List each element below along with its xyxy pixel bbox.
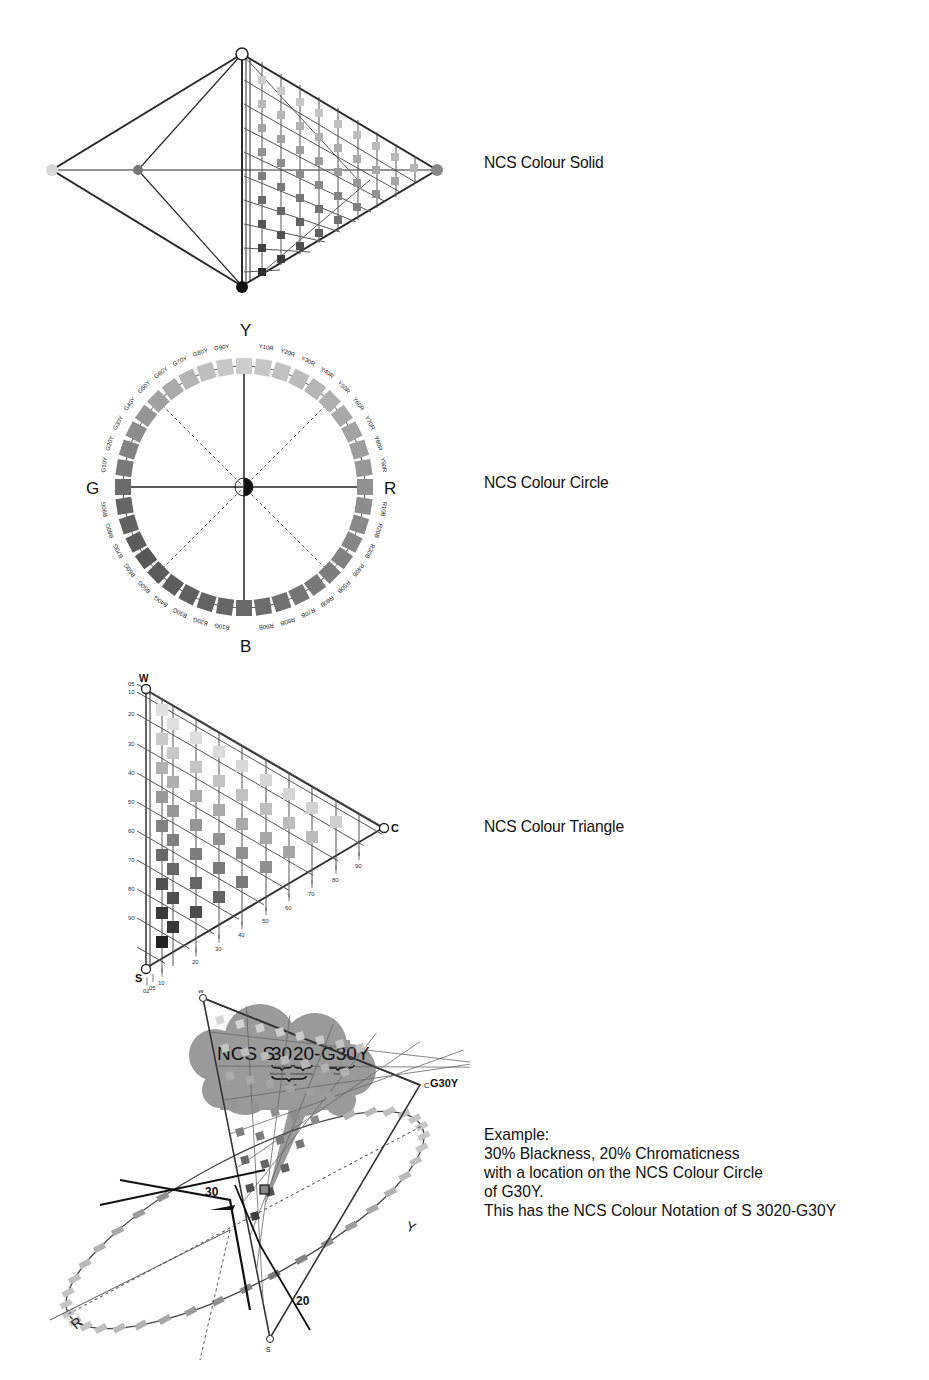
svg-text:80: 80 (332, 877, 339, 883)
svg-text:R10B: R10B (380, 501, 388, 517)
svg-text:G90Y: G90Y (214, 343, 230, 351)
svg-text:20: 20 (192, 959, 199, 965)
svg-text:90: 90 (355, 863, 362, 869)
example-corner-w: W (198, 990, 204, 994)
svg-text:B60G: B60G (122, 562, 136, 578)
example-line-5: This has the NCS Colour Notation of S 30… (484, 1201, 836, 1220)
example-description: Example: 30% Blackness, 20% Chromaticnes… (484, 1125, 836, 1220)
example-line-1: Example: (484, 1125, 836, 1144)
svg-text:G70Y: G70Y (172, 355, 188, 367)
white-corner-icon (142, 685, 151, 694)
svg-text:40: 40 (238, 932, 245, 938)
ncs-colour-triangle-diagram: 0510203040506070809002051020304050607080… (125, 670, 415, 1000)
pole-label-y: Y (240, 321, 251, 340)
example-y-pole: Y (404, 1218, 419, 1236)
svg-text:Y60R: Y60R (352, 396, 366, 412)
pole-label-r: R (384, 479, 396, 498)
svg-text:10: 10 (158, 980, 165, 986)
svg-text:05: 05 (128, 681, 135, 687)
example-blackness-marker: 30 (205, 1185, 219, 1199)
svg-text:G60Y: G60Y (153, 366, 169, 380)
svg-text:90: 90 (128, 915, 135, 921)
example-line-3: with a location on the NCS Colour Circle (484, 1163, 836, 1182)
cloud-sub-blackness: blackness (270, 1072, 286, 1076)
svg-text:50: 50 (262, 918, 269, 924)
svg-text:Y50R: Y50R (337, 380, 352, 395)
svg-text:B40G: B40G (153, 594, 169, 608)
caption-colour-solid: NCS Colour Solid (484, 153, 604, 173)
svg-text:G40Y: G40Y (123, 396, 137, 412)
corner-label-w: W (139, 673, 149, 684)
svg-text:R70B: R70B (300, 607, 316, 619)
svg-text:B10G: B10G (213, 623, 229, 631)
svg-text:50: 50 (128, 799, 135, 805)
svg-text:10: 10 (128, 689, 135, 695)
svg-text:R30B: R30B (364, 543, 376, 559)
caption-colour-triangle: NCS Colour Triangle (484, 817, 624, 837)
ncs-colour-solid-diagram (40, 40, 460, 300)
svg-text:70: 70 (128, 857, 135, 863)
green-point-icon (133, 165, 143, 175)
svg-text:Y90R: Y90R (380, 457, 388, 473)
ncs-example-diagram: NCS S 30 20 - G30Y blackness chromaticne… (20, 990, 470, 1370)
example-line-2: 30% Blackness, 20% Chromaticness (484, 1144, 836, 1163)
svg-text:G20Y: G20Y (104, 435, 114, 451)
example-line-4: of G30Y. (484, 1182, 836, 1201)
svg-text:R40B: R40B (352, 562, 366, 578)
svg-text:B30G: B30G (171, 607, 188, 619)
svg-text:G80Y: G80Y (192, 347, 208, 357)
black-pole-icon (236, 281, 248, 293)
svg-text:Y30R: Y30R (300, 355, 317, 367)
svg-text:20: 20 (128, 711, 135, 717)
svg-text:B80G: B80G (104, 522, 115, 539)
svg-text:Y20R: Y20R (280, 347, 297, 358)
ncs-colour-circle-diagram: Y10RY20RY30RY40RY50RY60RY70RY80RY90RR10B… (70, 318, 420, 658)
svg-text:80: 80 (128, 886, 135, 892)
svg-text:60: 60 (128, 828, 135, 834)
svg-text:Y70R: Y70R (364, 415, 376, 432)
svg-text:R60B: R60B (319, 595, 335, 609)
corner-label-s: S (135, 972, 142, 984)
svg-text:B70G: B70G (112, 543, 124, 560)
white-pole-icon (236, 48, 248, 60)
pole-label-b: B (240, 637, 251, 656)
yellow-pole-icon (46, 164, 58, 176)
svg-text:G30Y: G30Y (112, 415, 124, 431)
svg-text:Y80R: Y80R (373, 435, 384, 452)
svg-text:B90G: B90G (100, 501, 108, 517)
svg-text:Y10R: Y10R (258, 343, 274, 351)
svg-text:G10Y: G10Y (100, 457, 108, 473)
example-chromaticness-marker: 20 (296, 1294, 310, 1308)
svg-text:70: 70 (308, 891, 315, 897)
chromatic-corner-icon (380, 824, 389, 833)
svg-text:B50G: B50G (136, 579, 151, 594)
svg-text:40: 40 (128, 770, 135, 776)
svg-text:G50Y: G50Y (136, 379, 151, 394)
cloud-sub-chromaticness: chromaticness (290, 1072, 313, 1076)
svg-text:30: 30 (215, 946, 222, 952)
pole-label-g: G (86, 479, 99, 498)
svg-text:Y40R: Y40R (319, 366, 335, 380)
svg-text:R90B: R90B (258, 623, 274, 631)
svg-text:R50B: R50B (337, 580, 352, 595)
black-corner-icon (142, 965, 151, 974)
example-hue-marker: G30Y (430, 1077, 459, 1089)
red-pole-icon (431, 164, 443, 176)
cloud-sub-hue: hue (334, 1072, 340, 1076)
corner-label-c: C (391, 822, 399, 834)
svg-text:R80B: R80B (280, 616, 296, 626)
svg-text:30: 30 (128, 741, 135, 747)
cloud-dash: - (314, 1043, 320, 1064)
svg-text:R20B: R20B (373, 523, 383, 539)
example-corner-s: S (266, 1346, 271, 1353)
svg-text:B20G: B20G (192, 616, 209, 627)
svg-text:60: 60 (285, 905, 292, 911)
caption-colour-circle: NCS Colour Circle (484, 473, 609, 493)
